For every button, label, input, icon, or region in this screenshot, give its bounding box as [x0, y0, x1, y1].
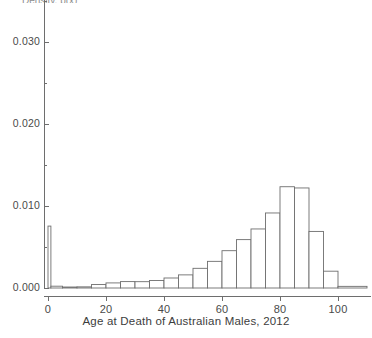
x-tick-label: 100: [308, 303, 368, 315]
histogram-bar: [222, 251, 237, 288]
histogram-plot: [0, 0, 372, 338]
histogram-bar: [338, 286, 367, 288]
y-tick-label: 0.010: [13, 199, 40, 211]
y-tick-label: 0.030: [13, 35, 40, 47]
y-tick-label: 0.000: [13, 281, 40, 293]
histogram-bar: [63, 287, 78, 288]
histogram-bar: [193, 268, 208, 288]
histogram-figure: Density, p(x) 0.0000.0100.0200.030 02040…: [0, 0, 372, 338]
histogram-bar: [150, 280, 165, 288]
histogram-bar: [135, 282, 150, 288]
y-tick-label: 0.020: [13, 117, 40, 129]
histogram-bar: [164, 278, 179, 288]
histogram-bar: [106, 283, 121, 288]
histogram-bar: [324, 271, 339, 288]
histogram-bar: [51, 286, 63, 288]
histogram-bar: [208, 261, 223, 288]
histogram-bar: [295, 188, 310, 288]
x-tick-label: 20: [76, 303, 136, 315]
histogram-bar: [237, 240, 252, 288]
x-tick-label: 60: [192, 303, 252, 315]
histogram-bar: [251, 229, 266, 288]
x-tick-label: 40: [134, 303, 194, 315]
histogram-bar: [92, 285, 107, 288]
histogram-bar: [280, 187, 295, 288]
histogram-bar: [77, 287, 92, 288]
x-axis-title: Age at Death of Australian Males, 2012: [0, 315, 372, 327]
x-tick-label: 0: [18, 303, 78, 315]
histogram-bars: [48, 187, 367, 288]
histogram-bar: [309, 231, 324, 288]
histogram-bar: [179, 275, 194, 288]
histogram-bar: [48, 226, 51, 288]
histogram-bar: [266, 213, 281, 288]
x-tick-label: 80: [250, 303, 310, 315]
histogram-bar: [121, 282, 136, 288]
